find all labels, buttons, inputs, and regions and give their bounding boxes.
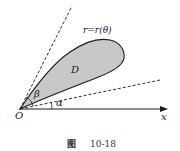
figure-caption: 图 10-18 bbox=[67, 132, 116, 151]
region-label: D bbox=[71, 65, 79, 75]
angle-alpha-label: α bbox=[56, 98, 63, 108]
angle-alpha-arc bbox=[51, 103, 52, 110]
angle-beta-label: β bbox=[34, 89, 40, 99]
figure-canvas bbox=[0, 0, 180, 151]
x-axis-label: x bbox=[161, 112, 167, 122]
curve-label: r=r(θ) bbox=[83, 26, 112, 35]
caption-prefix: 图 bbox=[67, 139, 76, 149]
polar-region-figure: r=r(θ) D β α O x 图 10-18 bbox=[0, 0, 180, 151]
origin-label: O bbox=[15, 111, 23, 121]
caption-number: 10-18 bbox=[90, 139, 116, 149]
